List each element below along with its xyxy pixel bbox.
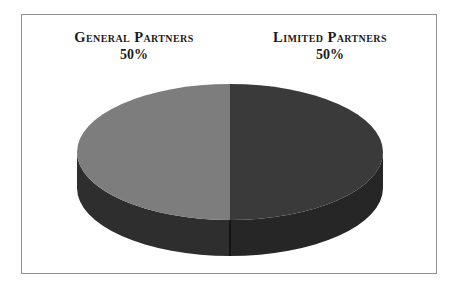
slice-label-limited-partners: Limited Partners 50% <box>244 29 416 64</box>
pie-svg <box>77 84 383 256</box>
slice-label-limited-partners-value: 50% <box>244 47 416 64</box>
slice-label-general-partners-value: 50% <box>48 47 220 64</box>
slice-label-general-partners-name: General Partners <box>48 29 220 46</box>
pie-chart-figure: General Partners 50% Limited Partners 50… <box>0 0 459 289</box>
slice-label-limited-partners-name: Limited Partners <box>244 29 416 46</box>
pie-3d-graphic <box>77 84 383 256</box>
slice-label-general-partners: General Partners 50% <box>48 29 220 64</box>
